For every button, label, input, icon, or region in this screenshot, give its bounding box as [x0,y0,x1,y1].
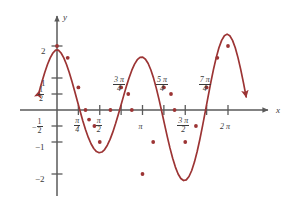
data-point [87,118,91,122]
x-tick-label: 5 π4 [156,75,168,93]
data-point [151,140,155,144]
x-tick-label: π [139,116,143,132]
data-point [194,124,198,128]
data-point [141,172,145,176]
data-point [215,56,219,60]
data-point [173,108,177,112]
data-point [183,140,187,144]
y-axis-label: y [63,13,67,22]
data-point [84,108,88,112]
x-tick-label: 3 π4 [113,75,125,93]
x-tick-label: 7 π4 [199,75,211,93]
x-tick-label: 3 π2 [177,116,189,134]
data-point [226,44,230,48]
y-tick-label: −12 [32,117,43,135]
y-tick-label: −1 [35,137,45,153]
x-tick-label: π4 [74,116,80,134]
data-point [76,85,80,89]
y-tick-label: −2 [35,169,45,185]
data-point [109,108,113,112]
x-tick-label: π2 [96,116,102,134]
data-point [66,56,70,60]
data-point [55,44,59,48]
data-point [130,108,134,112]
x-axis-label: x [276,106,280,115]
data-point [169,92,173,96]
data-point [98,140,102,144]
axes [20,16,268,196]
y-tick-label: 2 [41,41,46,57]
graph-figure: y x 2112−12−1−2 π4π23 π4π5 π43 π27 π42 π [0,0,296,211]
y-tick-label: 12 [38,85,44,103]
x-tick-label: 2 π [220,116,230,132]
data-point [126,92,130,96]
